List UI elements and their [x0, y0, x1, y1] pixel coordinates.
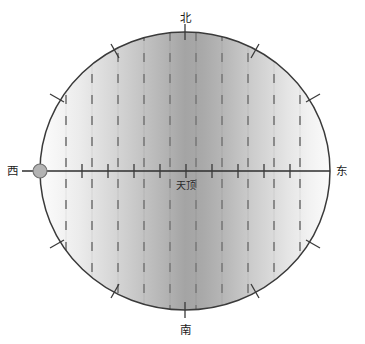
label-south: 南	[180, 323, 191, 337]
diagram-canvas: 北 南 西 东 天顶	[0, 0, 365, 344]
celestial-sphere-svg: 北 南 西 东 天顶	[0, 0, 365, 344]
label-east: 东	[336, 164, 347, 178]
label-west: 西	[7, 164, 18, 178]
west-point-marker	[33, 164, 47, 178]
label-north: 北	[180, 11, 192, 25]
label-zenith: 天顶	[176, 180, 196, 191]
